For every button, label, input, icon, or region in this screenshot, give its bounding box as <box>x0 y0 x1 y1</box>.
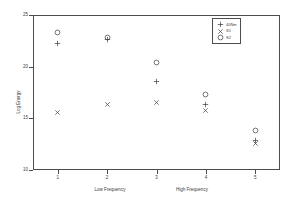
legend: 40NmS1S2 <box>212 18 241 44</box>
x-axis-label-high: High Frequency <box>176 188 208 193</box>
x-tick-mark <box>107 170 108 174</box>
plus-marker <box>153 78 160 85</box>
x-tick-label: 5 <box>254 176 257 181</box>
legend-item[interactable]: S2 <box>216 35 237 41</box>
y-tick-mark <box>29 67 33 68</box>
scatter-chart: Log Energy 25201510 12345 Low Frequency … <box>0 0 297 203</box>
x-tick-label: 2 <box>106 176 109 181</box>
legend-item-label: 40Nm <box>226 23 237 27</box>
x-tick-mark <box>58 170 59 174</box>
cross-marker <box>202 107 209 114</box>
x-tick-mark <box>255 170 256 174</box>
cross-marker <box>54 109 61 116</box>
cross-marker <box>104 101 111 108</box>
plus-marker <box>54 40 61 47</box>
y-tick-label: 20 <box>23 64 28 69</box>
y-tick-label: 10 <box>23 168 28 173</box>
circle-marker <box>153 59 160 66</box>
x-tick-label: 3 <box>155 176 158 181</box>
circle-marker <box>202 91 209 98</box>
circle-marker <box>104 34 111 41</box>
y-tick-label: 25 <box>23 13 28 18</box>
x-tick-label: 4 <box>205 176 208 181</box>
legend-circle-marker <box>216 35 224 41</box>
x-tick-mark <box>206 170 207 174</box>
y-tick-mark <box>29 118 33 119</box>
legend-item-label: S2 <box>226 36 231 40</box>
y-tick-label: 15 <box>23 116 28 121</box>
y-tick-mark <box>29 170 33 171</box>
circle-marker <box>217 34 224 41</box>
circle-marker <box>54 29 61 36</box>
plot-area: 25201510 12345 <box>33 15 280 170</box>
x-tick-mark <box>157 170 158 174</box>
legend-item-label: S1 <box>226 29 231 33</box>
circle-marker <box>252 127 259 134</box>
x-axis-label-low: Low Frequency <box>95 188 126 193</box>
y-axis-title: Log Energy <box>17 90 22 113</box>
cross-marker <box>153 99 160 106</box>
y-tick-mark <box>29 15 33 16</box>
x-tick-label: 1 <box>56 176 59 181</box>
cross-marker <box>252 140 259 147</box>
